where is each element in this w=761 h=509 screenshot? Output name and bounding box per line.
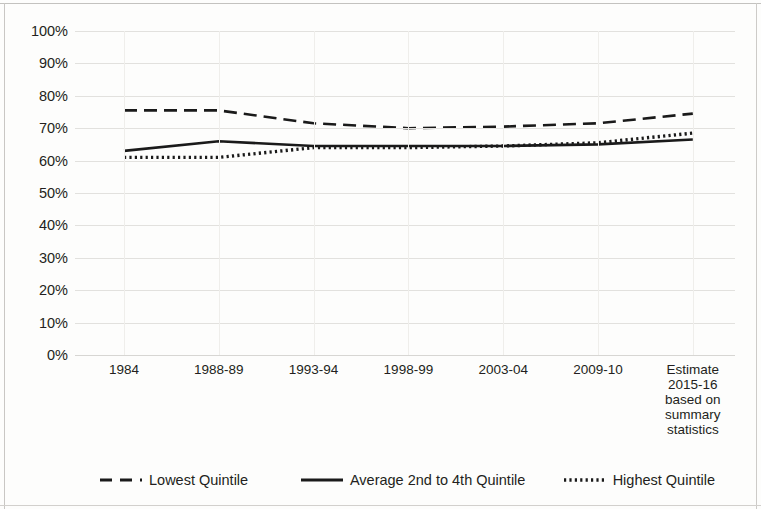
- y-axis-tick-label: 40%: [2, 218, 68, 233]
- legend-label: Average 2nd to 4th Quintile: [350, 472, 525, 488]
- y-axis-tick-label: 0%: [2, 348, 68, 363]
- y-axis-tick-label: 100%: [2, 24, 68, 39]
- page-border-right: [756, 3, 757, 509]
- gridline-vertical: [124, 31, 125, 355]
- y-axis-tick-label: 80%: [2, 89, 68, 104]
- x-axis-tick-label: 1988-89: [173, 362, 265, 377]
- x-axis-tick-line: 2009-10: [552, 362, 644, 377]
- legend-swatch-dotted: [563, 474, 607, 486]
- x-axis-tick-line: 1984: [78, 362, 170, 377]
- x-axis-tick-label: 2003-04: [457, 362, 549, 377]
- gridline: [75, 193, 735, 194]
- x-axis-tick-line: 2015-16: [647, 377, 739, 392]
- gridline: [75, 290, 735, 291]
- x-axis-tick-line: statistics: [647, 422, 739, 437]
- y-axis: 0%10%20%30%40%50%60%70%80%90%100%: [0, 31, 68, 355]
- x-axis-tick-label: 1984: [78, 362, 170, 377]
- gridline: [75, 225, 735, 226]
- x-axis-tick-label: 1998-99: [362, 362, 454, 377]
- chart-legend: Lowest QuintileAverage 2nd to 4th Quinti…: [75, 468, 715, 492]
- y-axis-tick-label: 60%: [2, 154, 68, 169]
- gridline: [75, 63, 735, 64]
- legend-swatch-solid: [300, 474, 344, 486]
- plot-area: [75, 31, 735, 355]
- x-axis-tick-line: summary: [647, 407, 739, 422]
- gridline-vertical: [219, 31, 220, 355]
- x-axis-tick-label: 2009-10: [552, 362, 644, 377]
- gridline: [75, 96, 735, 97]
- gridline-vertical: [408, 31, 409, 355]
- page-border-top: [0, 3, 761, 4]
- gridline-vertical: [693, 31, 694, 355]
- legend-label: Highest Quintile: [613, 472, 715, 488]
- gridline-vertical: [503, 31, 504, 355]
- legend-swatch-dashed: [99, 474, 143, 486]
- gridline: [75, 161, 735, 162]
- y-axis-tick-label: 70%: [2, 121, 68, 136]
- legend-item[interactable]: Highest Quintile: [563, 472, 715, 488]
- gridline: [75, 31, 735, 32]
- gridline: [75, 258, 735, 259]
- x-axis-tick-line: based on: [647, 392, 739, 407]
- gridline: [75, 355, 735, 356]
- y-axis-tick-label: 10%: [2, 316, 68, 331]
- page-border-bottom: [0, 505, 761, 506]
- y-axis-tick-label: 30%: [2, 251, 68, 266]
- legend-item[interactable]: Average 2nd to 4th Quintile: [300, 472, 525, 488]
- x-axis-tick-line: 2003-04: [457, 362, 549, 377]
- x-axis-tick-label: Estimate2015-16based onsummarystatistics: [647, 362, 739, 437]
- x-axis-tick-line: 1993-94: [268, 362, 360, 377]
- gridline-vertical: [314, 31, 315, 355]
- legend-label: Lowest Quintile: [149, 472, 248, 488]
- gridline-vertical: [598, 31, 599, 355]
- x-axis-tick-line: 1998-99: [362, 362, 454, 377]
- x-axis-tick-line: Estimate: [647, 362, 739, 377]
- y-axis-tick-label: 20%: [2, 283, 68, 298]
- x-axis-tick-label: 1993-94: [268, 362, 360, 377]
- y-axis-tick-label: 90%: [2, 56, 68, 71]
- chart-figure: 0%10%20%30%40%50%60%70%80%90%100% 198419…: [0, 0, 761, 509]
- x-axis-tick-line: 1988-89: [173, 362, 265, 377]
- gridline: [75, 128, 735, 129]
- y-axis-tick-label: 50%: [2, 186, 68, 201]
- gridline: [75, 323, 735, 324]
- x-axis: 19841988-891993-941998-992003-042009-10E…: [75, 362, 735, 472]
- legend-item[interactable]: Lowest Quintile: [99, 472, 248, 488]
